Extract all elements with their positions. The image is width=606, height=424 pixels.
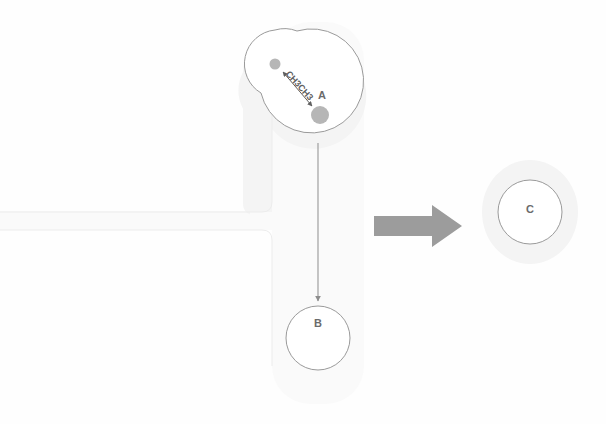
channel-join (250, 212, 290, 230)
methyl-group-dot-small (270, 59, 281, 70)
diagram-svg: CH3CH3 A B C (0, 0, 606, 424)
block-transform-arrow (374, 205, 462, 247)
diagram-canvas: CH3CH3 A B C (0, 0, 606, 424)
node-b-group[interactable]: B (286, 306, 350, 370)
node-b-label: B (314, 317, 322, 329)
node-a-label: A (318, 89, 326, 101)
methyl-group-dot-large (311, 106, 329, 124)
node-b-outline (286, 306, 350, 370)
node-c-group[interactable]: C (498, 180, 562, 244)
node-c-label: C (526, 203, 534, 215)
